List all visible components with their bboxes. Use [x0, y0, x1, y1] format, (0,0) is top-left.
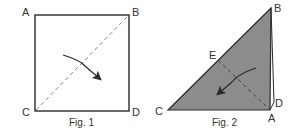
fig1-label-d: D [132, 107, 140, 118]
fig1-label-a: A [22, 7, 29, 18]
diagram-canvas [0, 0, 296, 137]
fig1-label-b: B [132, 7, 139, 18]
fig2-label-c: C [155, 106, 163, 117]
fig1-label-c: C [22, 107, 30, 118]
fig2-triangle [168, 8, 274, 110]
fig2-label-e: E [209, 50, 216, 61]
fig2-caption: Fig. 2 [212, 118, 237, 128]
fig1-fold-arrow [63, 55, 100, 79]
fig2-label-a: A [268, 113, 275, 124]
fig2-label-d: D [275, 98, 283, 109]
fig2-label-b: B [274, 3, 281, 14]
fig1-caption: Fig. 1 [69, 118, 94, 128]
